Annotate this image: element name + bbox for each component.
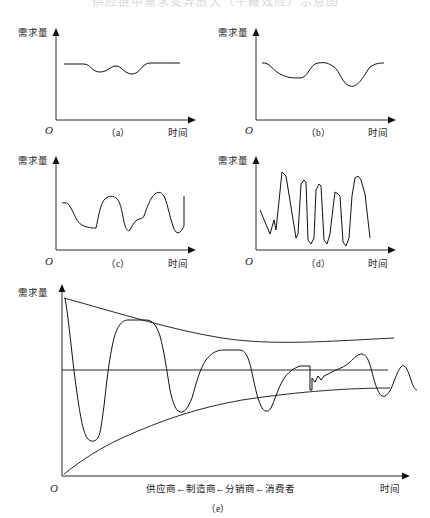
panel-a-origin: O — [45, 124, 53, 136]
panel-c-caption: （c） — [106, 258, 130, 269]
panel-d-caption: （d） — [306, 258, 331, 269]
panel-e-x-label: 时间 — [380, 483, 400, 494]
panel-c-origin: O — [45, 255, 53, 267]
panel-d: 需求量 O （d） 时间 — [218, 150, 418, 272]
panel-a-chart: 需求量 O （a） 时间 — [18, 22, 218, 140]
panel-c-x-label: 时间 — [168, 258, 188, 269]
panel-b-chart: 需求量 O （b） 时间 — [218, 22, 418, 140]
panel-e-lower-envelope — [64, 388, 390, 474]
panel-b-y-arrow-icon — [253, 28, 260, 36]
panel-d-x-label: 时间 — [368, 258, 388, 269]
panel-d-origin: O — [245, 255, 253, 267]
panel-c-y-label: 需求量 — [18, 155, 48, 166]
panel-d-y-label: 需求量 — [218, 155, 248, 166]
panel-b: 需求量 O （b） 时间 — [218, 22, 418, 140]
panel-e-chart: 需求量 O 供应商←制造商←分销商←消费者 时间 （e） — [12, 280, 430, 518]
panel-b-x-arrow-icon — [388, 117, 396, 124]
panel-b-x-label: 时间 — [368, 127, 388, 138]
panel-c-x-arrow-icon — [188, 247, 196, 254]
panel-e: 需求量 O 供应商←制造商←分销商←消费者 时间 （e） — [12, 280, 430, 518]
figure-title: 供应链中需求变异放大（牛鞭效应）示意图 — [0, 0, 430, 10]
panel-a-y-arrow-icon — [53, 28, 60, 36]
panel-d-x-arrow-icon — [388, 247, 396, 254]
panel-e-supply-chain-label: 供应商←制造商←分销商←消费者 — [146, 483, 295, 494]
panel-b-origin: O — [245, 124, 253, 136]
panel-b-y-label: 需求量 — [218, 27, 248, 38]
panel-d-chart: 需求量 O （d） 时间 — [218, 150, 418, 272]
panel-a-curve — [64, 63, 180, 74]
panel-a-caption: （a） — [106, 127, 130, 138]
panel-a: 需求量 O （a） 时间 — [18, 22, 218, 140]
panel-e-caption: （e） — [206, 503, 230, 514]
panel-b-caption: （b） — [306, 127, 331, 138]
panel-a-x-label: 时间 — [168, 127, 188, 138]
panel-d-y-arrow-icon — [253, 156, 260, 164]
panel-c: 需求量 O （c） 时间 — [18, 150, 218, 272]
panel-e-x-arrow-icon — [402, 473, 410, 480]
panel-c-curve — [62, 192, 184, 232]
panel-b-curve — [262, 63, 384, 87]
panel-e-y-label: 需求量 — [18, 287, 48, 298]
panel-a-y-label: 需求量 — [18, 27, 48, 38]
panel-e-y-arrow-icon — [59, 284, 66, 292]
panel-e-upper-envelope — [64, 298, 394, 342]
panel-a-x-arrow-icon — [188, 117, 196, 124]
panel-d-curve — [260, 172, 370, 246]
panel-e-origin: O — [50, 482, 58, 494]
panel-c-y-arrow-icon — [53, 156, 60, 164]
panel-c-chart: 需求量 O （c） 时间 — [18, 150, 218, 272]
